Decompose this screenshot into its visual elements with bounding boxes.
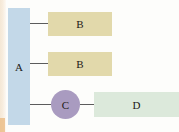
diagram-canvas: A B B C D [0,0,179,132]
node-b2-label: B [76,58,84,70]
connector-c-to-d [80,104,94,105]
connector-a-to-b1 [30,23,48,24]
page-edge-strip [0,0,6,132]
node-b2: B [48,52,112,76]
node-a: A [8,8,30,125]
connector-a-to-c [30,104,51,105]
node-d: D [94,92,179,117]
node-c: C [51,90,80,119]
node-b1-label: B [76,18,84,30]
node-b1: B [48,12,112,36]
node-c-label: C [62,99,70,111]
node-a-label: A [15,61,23,73]
connector-a-to-b2 [30,63,48,64]
page-edge-strip-accent [0,118,5,132]
cropped-header-text [6,0,76,7]
node-d-label: D [132,99,140,111]
